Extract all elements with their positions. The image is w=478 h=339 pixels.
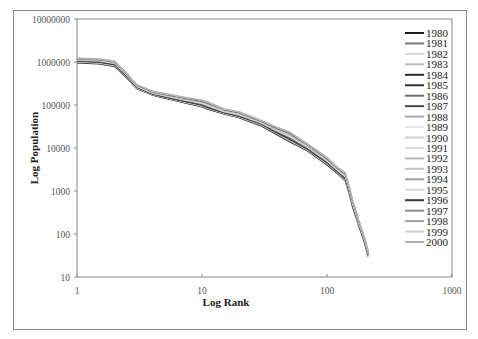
x-tick-label: 10 <box>197 286 207 296</box>
legend-item-2000: 2000 <box>405 236 449 248</box>
log-log-line-chart: 10100100010000100000100000010000000 1101… <box>0 0 478 339</box>
y-tick-label: 100000 <box>42 101 71 111</box>
y-tick-label: 100 <box>56 230 71 240</box>
x-tick-label: 1000 <box>443 286 462 296</box>
x-tick-label: 1 <box>75 286 80 296</box>
legend: 1980198119821983198419851986198719881989… <box>405 27 449 248</box>
legend-label: 2000 <box>426 236 449 248</box>
plot-area <box>77 19 452 277</box>
y-tick-label: 1000 <box>51 187 70 197</box>
y-tick-label: 10000000 <box>32 15 70 25</box>
y-axis-title: Log Population <box>28 112 40 184</box>
series-line-2000 <box>77 58 368 250</box>
series-lines <box>77 58 368 256</box>
y-tick-label: 10 <box>61 273 71 283</box>
y-tick-label: 1000000 <box>37 58 71 68</box>
x-tick-label: 100 <box>320 286 335 296</box>
x-axis-title: Log Rank <box>203 296 251 308</box>
series-line-1999 <box>77 58 368 250</box>
y-tick-label: 10000 <box>46 144 70 154</box>
